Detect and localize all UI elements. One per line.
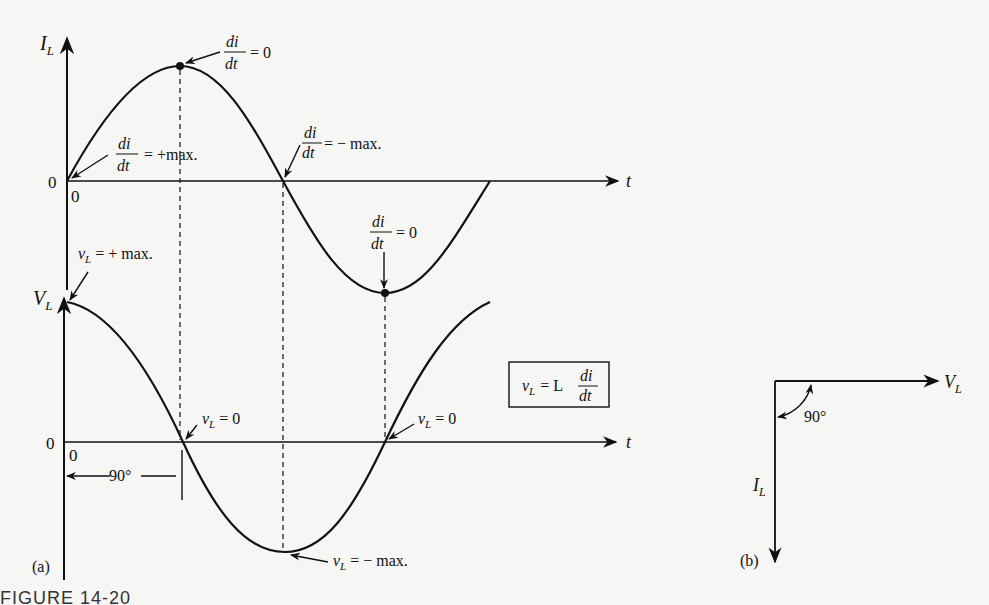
figure-canvas: IL 0 0 t di dt = 0 di dt = +max. di dt =…	[0, 0, 989, 605]
trough-point	[381, 289, 389, 297]
peak-num: di	[226, 33, 238, 50]
trough-num: di	[372, 213, 384, 230]
current-t-label: t	[626, 171, 632, 191]
start-arrow	[72, 155, 108, 178]
phase-label: 90°	[109, 467, 131, 484]
cross-den: dt	[302, 144, 315, 161]
trough-eq: = 0	[396, 224, 417, 241]
start-den: dt	[117, 157, 130, 174]
start-eq: = +max.	[144, 146, 198, 163]
voltage-zero-y: 0	[46, 434, 55, 453]
vtrough-arrow	[291, 555, 328, 562]
cross-num: di	[304, 124, 316, 141]
figure-caption: FIGURE 14-20	[0, 588, 131, 605]
vtrough-label: vL= − max.	[333, 552, 408, 572]
formula-den: dt	[579, 387, 592, 404]
trough-den: dt	[371, 235, 384, 252]
voltage-t-label: t	[626, 432, 632, 452]
panel-a-label: (a)	[32, 558, 50, 576]
peak-arrow	[186, 52, 220, 63]
formula-num: di	[580, 367, 592, 384]
current-zero-x: 0	[71, 187, 80, 206]
peak-eq: = 0	[250, 44, 271, 61]
start-num: di	[118, 135, 130, 152]
vstart-arrow	[70, 272, 88, 300]
current-zero-y: 0	[48, 173, 57, 192]
phasor-i-label: IL	[752, 475, 766, 499]
current-axis-label: IL	[39, 32, 54, 58]
peak-den: dt	[225, 55, 238, 72]
voltage-plot: VL 0 0 t vL= + max. vL= 0 vL= 0 vL= − ma…	[33, 245, 632, 580]
phasor-angle: 90°	[804, 408, 826, 425]
peak-point	[176, 62, 184, 70]
phasor-v-label: VL	[944, 372, 962, 396]
cross-eq: = − max.	[324, 135, 382, 152]
voltage-axis-label: VL	[33, 287, 52, 313]
vzero1-label: vL= 0	[202, 410, 240, 430]
panel-b-label: (b)	[740, 552, 759, 570]
cross-arrow	[285, 145, 300, 177]
phasor-diagram: 90° VL IL (b)	[740, 372, 962, 570]
formula-lhs: vL= L	[522, 377, 563, 397]
voltage-zero-x: 0	[69, 446, 78, 465]
vstart-label: vL= + max.	[78, 245, 153, 265]
vzero2-label: vL= 0	[418, 410, 456, 430]
vzero1-arrow	[186, 425, 197, 439]
